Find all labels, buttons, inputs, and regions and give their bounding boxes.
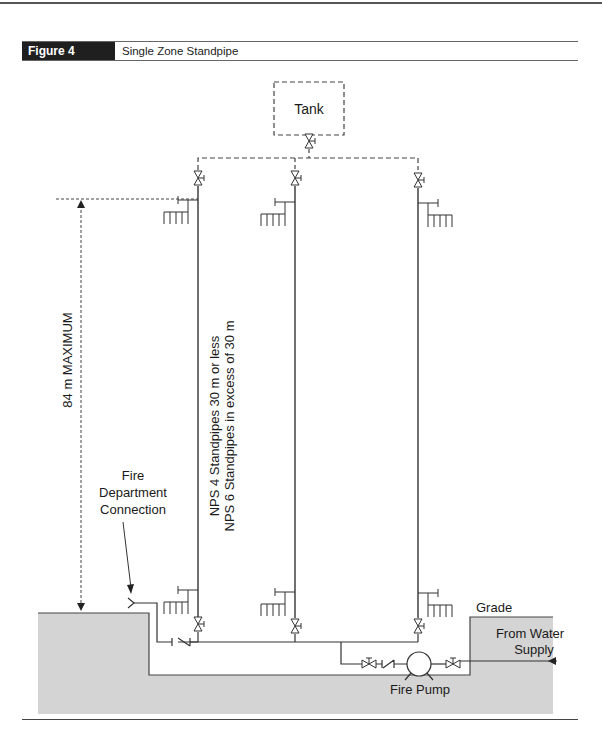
hose-outlet-1-bottom-icon <box>164 586 198 614</box>
grade-label: Grade <box>476 600 512 615</box>
standpipe-1-top-valve-icon <box>194 171 204 185</box>
standpipe-1-bottom-valve-icon <box>194 617 204 631</box>
water-supply-label-line1: From Water <box>496 626 565 641</box>
standpipe-note-line1: NPS 4 Standpipes 30 m or less <box>207 335 222 516</box>
height-arrow-top-icon <box>77 200 85 208</box>
fdc-leader-line <box>123 522 131 588</box>
fdc-check-valve-icon <box>172 638 198 646</box>
fdc-label-line3: Connection <box>100 502 166 517</box>
tank-gate-valve-icon <box>305 134 315 148</box>
hose-outlet-2-top-icon <box>261 198 295 226</box>
standpipe-3-top-valve-icon <box>414 173 424 187</box>
height-arrow-bottom-icon <box>77 603 85 611</box>
pump-suction-valve-icon <box>362 658 376 668</box>
pump-check-valve-icon <box>376 660 407 668</box>
hose-outlet-3-top-icon <box>418 199 452 227</box>
hose-outlet-2-bottom-icon <box>261 588 295 616</box>
fire-pump-icon <box>407 652 431 676</box>
hose-outlet-1-top-icon <box>164 196 198 224</box>
hose-outlet-3-bottom-icon <box>418 589 452 617</box>
figure-bottom-rule <box>22 719 578 720</box>
water-supply-label-line2: Supply <box>514 642 554 657</box>
standpipe-2-bottom-valve-icon <box>291 619 301 633</box>
standpipe-2-top-valve-icon <box>291 171 301 185</box>
fdc-leader-arrow-icon <box>127 584 134 594</box>
height-label: 84 m MAXIMUM <box>60 312 75 407</box>
fdc-label-line2: Department <box>99 485 167 500</box>
standpipe-3-bottom-valve-icon <box>414 619 424 633</box>
tank-header-pipe <box>198 158 418 170</box>
standpipe-note-line2: NPS 6 Standpipes in excess of 30 m <box>222 320 237 531</box>
pump-discharge-valve-icon <box>446 658 460 668</box>
fdc-siamese-icon <box>128 598 134 608</box>
fdc-label-line1: Fire <box>122 468 144 483</box>
tank-label: Tank <box>294 101 325 117</box>
standpipe-diagram: Tank 84 m MAXIMUM NPS 4 S <box>0 0 602 736</box>
fire-pump-label: Fire Pump <box>390 682 450 697</box>
